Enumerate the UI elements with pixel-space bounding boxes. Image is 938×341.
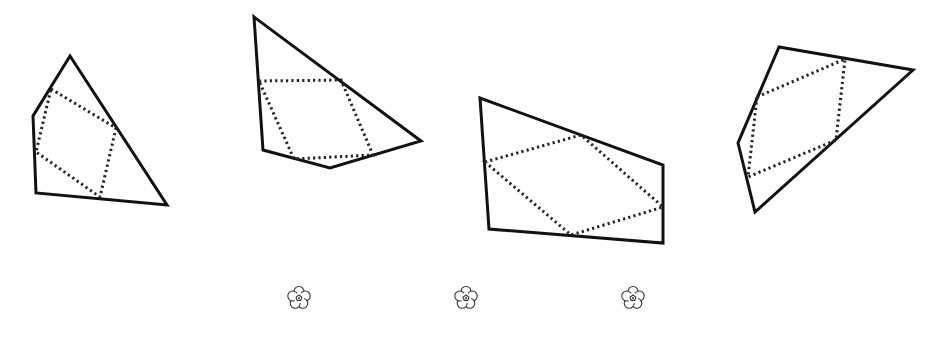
inscribed-dotted-quadrilateral (485, 135, 663, 235)
shape-2 (254, 17, 421, 168)
flower-icon (620, 285, 646, 311)
outer-quadrilateral (480, 98, 663, 243)
flower-icon (286, 285, 312, 311)
shape-4 (738, 47, 913, 212)
flower-icon (453, 285, 479, 311)
flower-icon-glyph (286, 285, 312, 311)
inscribed-dotted-quadrilateral (748, 59, 845, 177)
flower-icon-glyph (453, 285, 479, 311)
inscribed-dotted-quadrilateral (36, 89, 116, 197)
flower-icon-glyph (620, 285, 646, 311)
outer-quadrilateral (254, 17, 421, 168)
shape-1 (33, 56, 167, 205)
outer-quadrilateral (33, 56, 167, 205)
outer-quadrilateral (738, 47, 913, 212)
shape-3 (480, 98, 663, 243)
